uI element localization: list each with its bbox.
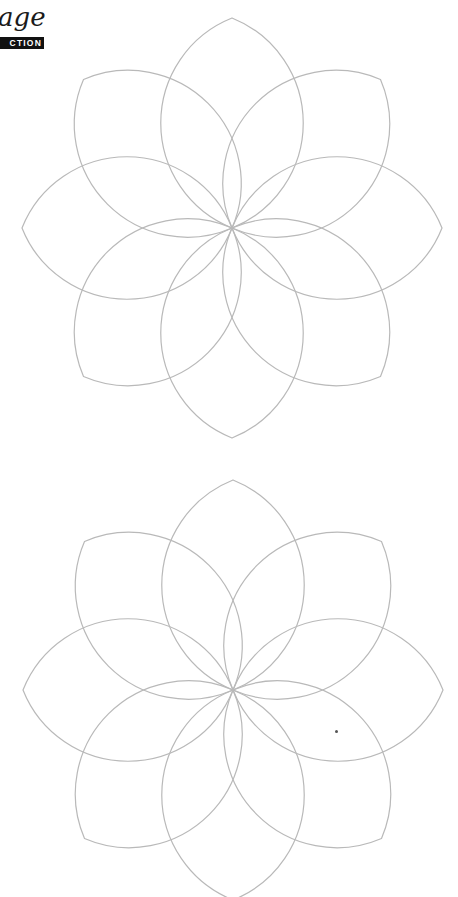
petal-outline [162, 480, 304, 690]
petal-outline [75, 681, 242, 848]
petal-outline [75, 532, 242, 699]
petal-outline [224, 681, 391, 848]
petal-outline [233, 619, 443, 761]
petal-outline [224, 532, 391, 699]
speck [335, 730, 338, 733]
petal-outline [162, 690, 304, 897]
petal-outline [23, 619, 233, 761]
flower-drawing-bottom [0, 0, 458, 897]
